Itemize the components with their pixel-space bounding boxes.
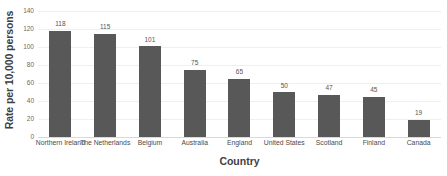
x-axis-title-text: Country [219, 155, 259, 167]
plot-area: 020406080100120140 118115101756550474519 [38, 11, 441, 137]
y-axis-tick-label: 100 [23, 44, 34, 51]
bar [94, 34, 116, 138]
x-axis-ticks: Northern IrelandThe NetherlandsBelgiumAu… [38, 139, 441, 153]
y-axis-tick-label: 140 [23, 8, 34, 15]
bar-value-label: 45 [370, 87, 377, 94]
bar-value-label: 75 [191, 60, 198, 67]
y-axis-title: Rate per 10,000 persons [0, 0, 18, 140]
bar-value-label: 101 [144, 37, 155, 44]
bar-chart: Rate per 10,000 persons 0204060801001201… [0, 0, 447, 176]
gridline [38, 137, 441, 138]
x-axis-tick-label: England [227, 139, 252, 146]
bar-group: 101 [128, 11, 173, 137]
bar-value-label: 65 [236, 69, 243, 76]
bar-group: 50 [262, 11, 307, 137]
bar-group: 45 [351, 11, 396, 137]
bar-group: 19 [396, 11, 441, 137]
bar [318, 95, 340, 137]
bar [273, 92, 295, 137]
bar-group: 75 [172, 11, 217, 137]
bar-group: 47 [307, 11, 352, 137]
bar [363, 97, 385, 138]
y-axis-tick-label: 40 [27, 98, 34, 105]
bar [228, 79, 250, 138]
y-axis-tick-label: 0 [30, 134, 34, 141]
bar-group: 118 [38, 11, 83, 137]
x-axis-tick-label: Scotland [316, 139, 342, 146]
bar [49, 31, 71, 137]
bar-value-label: 47 [325, 85, 332, 92]
x-axis-tick-label: United States [264, 139, 305, 146]
x-axis-tick-label: Finland [363, 139, 385, 146]
x-axis-tick-label: Belgium [138, 139, 163, 146]
bar [184, 70, 206, 138]
x-axis-tick-label: Australia [181, 139, 207, 146]
bar-value-label: 115 [100, 24, 110, 31]
bar-group: 65 [217, 11, 262, 137]
x-axis-tick-label: The Netherlands [80, 139, 130, 146]
bars: 118115101756550474519 [38, 11, 441, 137]
bar [139, 46, 161, 137]
x-axis-tick-label: Northern Ireland [36, 139, 85, 146]
bar-value-label: 19 [415, 110, 422, 117]
bar-value-label: 50 [281, 83, 288, 90]
bar [408, 120, 430, 137]
y-axis-tick-label: 120 [23, 26, 34, 33]
y-axis-tick-label: 60 [27, 80, 34, 87]
x-axis-tick-label: Canada [407, 139, 431, 146]
y-axis-title-text: Rate per 10,000 persons [3, 11, 15, 130]
bar-group: 115 [83, 11, 128, 137]
bar-value-label: 118 [55, 21, 65, 28]
y-axis-tick-label: 20 [27, 116, 34, 123]
y-axis-tick-label: 80 [27, 62, 34, 69]
x-axis-title: Country [38, 155, 441, 167]
